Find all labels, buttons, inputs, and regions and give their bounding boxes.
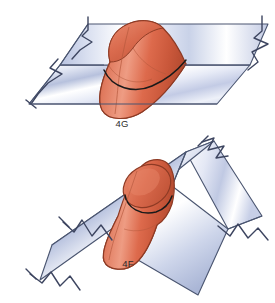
figure-label-4g: 4G [115, 118, 128, 129]
diagram-svg: 4G [0, 0, 275, 303]
break-symbol-4f-lower-left [30, 272, 80, 290]
break-tick-4f-mid-left [59, 217, 69, 227]
figure-4g: 4G [26, 16, 268, 129]
figure-label-4f: 4F [122, 258, 134, 269]
figure-4f: 4F [26, 136, 268, 295]
figure-canvas: 4G [0, 0, 275, 303]
break-tick-4f-lower-left [26, 269, 36, 279]
